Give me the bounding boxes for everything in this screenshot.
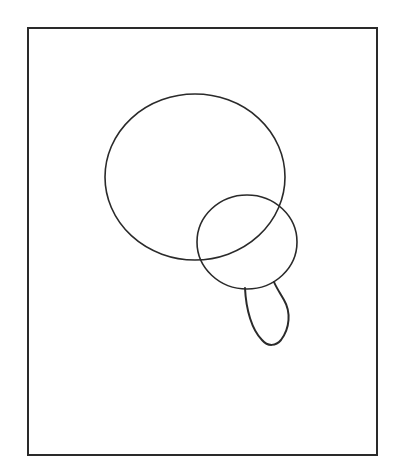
frame-border — [28, 28, 377, 455]
small-circle — [197, 195, 297, 289]
large-circle — [105, 94, 285, 260]
tail-loop — [245, 282, 289, 345]
drawing-canvas — [0, 0, 399, 473]
